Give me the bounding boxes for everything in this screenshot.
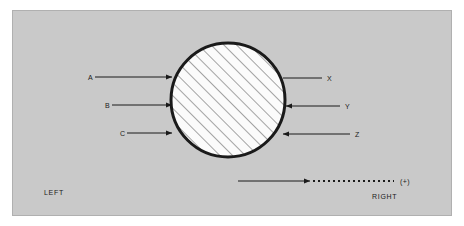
output-label-x: X <box>327 75 332 82</box>
diagram-canvas: A B C X Y Z (+) LEFT RIGHT <box>0 0 464 226</box>
input-label-c: C <box>120 130 125 137</box>
output-label-y: Y <box>345 103 350 110</box>
corner-label-right: RIGHT <box>372 193 397 200</box>
body-circle <box>171 43 285 157</box>
input-label-b: B <box>105 102 110 109</box>
scale-arrow-end-label: (+) <box>400 178 410 185</box>
corner-label-left: LEFT <box>44 189 64 196</box>
output-label-z: Z <box>355 131 360 138</box>
input-label-a: A <box>88 74 93 81</box>
